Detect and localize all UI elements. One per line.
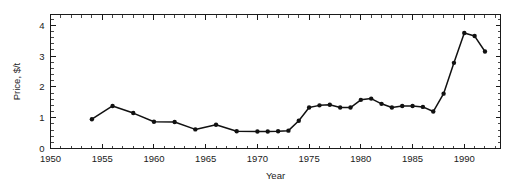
plot-frame (51, 15, 501, 149)
data-point (110, 104, 114, 108)
x-tick-label: 1955 (92, 153, 113, 164)
data-point (255, 129, 259, 133)
chart-figure: 1950195519601965197019751980198519900123… (0, 0, 518, 192)
data-point (483, 49, 487, 53)
data-point (441, 91, 445, 95)
y-tick-label: 2 (39, 81, 44, 92)
data-point (410, 104, 414, 108)
x-tick-label: 1970 (247, 153, 268, 164)
data-point (266, 129, 270, 133)
data-point (400, 104, 404, 108)
y-tick-label: 0 (39, 143, 44, 154)
series-line-price (92, 33, 485, 132)
data-point (172, 120, 176, 124)
data-point (369, 96, 373, 100)
data-point (472, 34, 476, 38)
data-point (359, 98, 363, 102)
data-point (297, 119, 301, 123)
data-point (452, 61, 456, 65)
data-point (214, 123, 218, 127)
data-point (90, 117, 94, 121)
y-tick-label: 1 (39, 112, 44, 123)
data-point (338, 105, 342, 109)
x-tick-label: 1980 (350, 153, 371, 164)
data-point (193, 127, 197, 131)
x-tick-label: 1960 (143, 153, 164, 164)
y-tick-label: 4 (39, 20, 44, 31)
data-point (317, 103, 321, 107)
data-point (152, 120, 156, 124)
data-point (276, 129, 280, 133)
price-line-chart: 1950195519601965197019751980198519900123… (0, 0, 518, 192)
data-point (348, 105, 352, 109)
x-tick-label: 1990 (454, 153, 475, 164)
data-point (235, 129, 239, 133)
data-point (131, 111, 135, 115)
data-point (307, 105, 311, 109)
y-axis-title: Price, $/t (11, 62, 22, 100)
data-point (390, 105, 394, 109)
data-point (286, 128, 290, 132)
data-point (379, 102, 383, 106)
x-tick-label: 1965 (195, 153, 216, 164)
data-point (421, 105, 425, 109)
data-point (328, 103, 332, 107)
x-tick-label: 1985 (402, 153, 423, 164)
x-tick-label: 1950 (40, 153, 61, 164)
x-tick-label: 1975 (299, 153, 320, 164)
data-point (462, 31, 466, 35)
data-point (431, 109, 435, 113)
x-axis-title: Year (266, 170, 285, 181)
y-tick-label: 3 (39, 51, 44, 62)
